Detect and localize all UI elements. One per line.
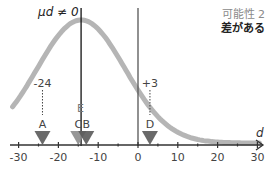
svg-text:A: A (39, 118, 47, 131)
triangle-marker-icon (142, 131, 158, 145)
hypothesis-label: μd ≠ 0 (37, 5, 79, 19)
difference-exists-label: 差がある (221, 22, 265, 36)
tick-label: 30 (250, 151, 264, 164)
tick-label: 20 (211, 151, 225, 164)
tick-label: -30 (10, 151, 28, 164)
marker-A: A-24 (33, 77, 51, 145)
diagram: -30-20-100102030 A-24CBD+3 E d μd ≠ 0 可能… (0, 0, 271, 171)
svg-text:C: C (74, 118, 82, 131)
mean-label: E (77, 102, 84, 115)
axis-label: d (256, 126, 264, 140)
possibility-number: 可能性 2 (221, 8, 265, 22)
tick-label: 10 (171, 151, 185, 164)
tick-label: -10 (89, 151, 107, 164)
tick-label: 0 (135, 151, 142, 164)
svg-text:+3: +3 (142, 77, 158, 90)
triangle-marker-icon (34, 131, 50, 145)
tick-label: -20 (49, 151, 67, 164)
svg-text:D: D (146, 118, 154, 131)
svg-text:B: B (82, 118, 90, 131)
svg-text:-24: -24 (33, 77, 51, 90)
markers: A-24CBD+3 (33, 77, 158, 145)
possibility-note: 可能性 2 差がある (221, 8, 265, 36)
